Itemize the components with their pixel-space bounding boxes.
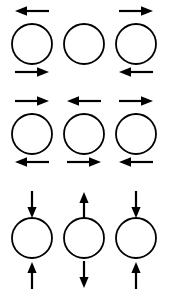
left-arrow-icon — [117, 66, 155, 78]
diagram-cell — [56, 0, 112, 88]
circle-shape — [10, 22, 54, 66]
diagram-cell — [108, 0, 164, 88]
left-arrow-icon — [13, 5, 51, 17]
diagram-cell — [4, 190, 60, 296]
diagram-canvas — [0, 0, 169, 296]
circle-shape — [114, 22, 158, 66]
left-arrow-icon — [117, 156, 155, 168]
circle-shape — [10, 112, 54, 156]
diagram-row — [0, 90, 169, 178]
diagram-cell — [4, 0, 60, 88]
circle-shape — [62, 112, 106, 156]
down-arrow-icon — [78, 260, 90, 290]
diagram-cell — [56, 190, 112, 296]
circle-shape — [114, 112, 158, 156]
right-arrow-icon — [117, 95, 155, 107]
diagram-row — [0, 190, 169, 296]
circle-shape — [114, 216, 158, 260]
circle-shape — [10, 216, 54, 260]
right-arrow-icon — [117, 5, 155, 17]
circle-shape — [62, 216, 106, 260]
diagram-row — [0, 0, 169, 88]
up-arrow-icon — [26, 260, 38, 290]
right-arrow-icon — [13, 95, 51, 107]
right-arrow-icon — [65, 156, 103, 168]
diagram-cell — [108, 190, 164, 296]
circle-shape — [62, 22, 106, 66]
left-arrow-icon — [65, 95, 103, 107]
left-arrow-icon — [13, 156, 51, 168]
right-arrow-icon — [13, 66, 51, 78]
diagram-cell — [56, 90, 112, 178]
diagram-cell — [4, 90, 60, 178]
diagram-cell — [108, 90, 164, 178]
up-arrow-icon — [130, 260, 142, 290]
